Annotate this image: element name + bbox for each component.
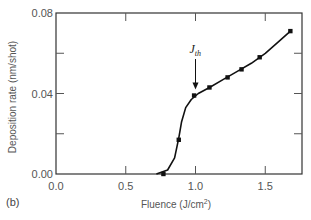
data-point (161, 172, 165, 176)
data-point (192, 93, 196, 97)
plot-frame (56, 13, 302, 174)
data-point (225, 75, 229, 79)
data-point (288, 29, 292, 33)
data-point (239, 67, 243, 71)
x-tick-label: 0.0 (48, 180, 63, 192)
data-points (161, 29, 292, 176)
fit-curve (156, 31, 290, 174)
y-axis-label: Deposition rate (nm/shot) (7, 41, 18, 153)
data-point (207, 85, 211, 89)
data-point (177, 138, 181, 142)
y-tick-label: 0.04 (32, 88, 53, 100)
y-tick-label: 0.00 (32, 168, 53, 180)
x-tick-label: 1.0 (188, 180, 203, 192)
panel-label: (b) (6, 196, 19, 208)
data-point (257, 55, 261, 59)
threshold-annotation: Jth (190, 42, 202, 90)
x-axis-label: Fluence (J/cm2) (141, 198, 211, 210)
x-tick-label: 1.5 (258, 180, 273, 192)
x-tick-label: 0.5 (118, 180, 133, 192)
y-tick-label: 0.08 (32, 7, 53, 19)
jth-label: Jth (190, 42, 202, 58)
axis-ticks: 0.00.51.01.50.000.040.08 (32, 7, 302, 192)
deposition-rate-chart: 0.00.51.01.50.000.040.08 Jth Deposition … (0, 0, 311, 220)
